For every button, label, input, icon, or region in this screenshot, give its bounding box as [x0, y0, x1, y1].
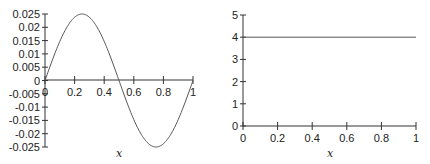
left-y-ticks: 0.0250.020.0150.010.0050-0.005-0.01-0.01…	[9, 8, 48, 153]
y-tick-label: 0.025	[12, 8, 40, 20]
right-plot: 543210 00.20.40.60.81 x	[232, 9, 419, 160]
right-x-ticks: 00.20.40.60.81	[240, 122, 419, 144]
x-tick-label: 0.2	[270, 132, 285, 144]
x-tick-label: 1	[413, 132, 419, 144]
y-tick-label: -0.025	[9, 141, 40, 153]
x-tick-label: 0.8	[156, 86, 171, 98]
left-x-axis-label: x	[116, 147, 123, 160]
y-tick-label: 2	[232, 76, 238, 88]
y-tick-label: -0.005	[9, 88, 40, 100]
y-tick-label: 1	[232, 98, 238, 110]
x-tick-label: 0.4	[305, 132, 320, 144]
x-tick-label: 0.8	[374, 132, 389, 144]
y-tick-label: 0.02	[19, 21, 40, 33]
y-tick-label: 3	[232, 53, 238, 65]
right-x-axis-label: x	[327, 147, 334, 160]
y-tick-label: 4	[232, 31, 238, 43]
x-tick-label: 0.6	[339, 132, 354, 144]
y-tick-label: 0	[232, 120, 238, 132]
y-tick-label: 0	[34, 75, 40, 87]
y-tick-label: -0.01	[15, 101, 40, 113]
y-tick-label: 0.01	[19, 48, 40, 60]
x-tick-label: 0	[42, 86, 48, 98]
y-tick-label: -0.015	[9, 114, 40, 126]
x-tick-label: 0.4	[97, 86, 112, 98]
x-tick-label: 0.6	[126, 86, 141, 98]
y-tick-label: 5	[232, 9, 238, 21]
right-y-ticks: 543210	[232, 9, 246, 132]
y-tick-label: 0.005	[12, 61, 40, 73]
x-tick-label: 0.2	[67, 86, 82, 98]
y-tick-label: -0.02	[15, 128, 40, 140]
left-plot: 0.0250.020.0150.010.0050-0.005-0.01-0.01…	[9, 8, 196, 160]
x-tick-label: 0	[240, 132, 246, 144]
y-tick-label: 0.015	[12, 35, 40, 47]
figure: 0.0250.020.0150.010.0050-0.005-0.01-0.01…	[0, 0, 430, 164]
